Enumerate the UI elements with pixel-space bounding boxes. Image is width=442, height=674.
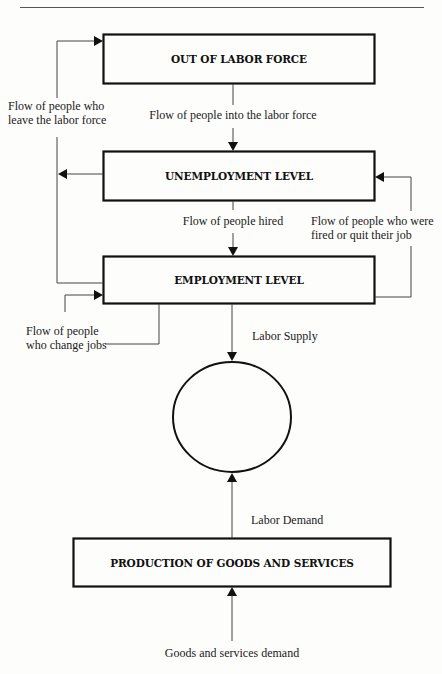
label-labor-demand: Labor Demand [251, 513, 323, 527]
flow-into-labor-force: Flow of people into the labor force [149, 84, 316, 151]
flow-labor-supply: Labor Supply [227, 304, 318, 361]
box-out-of-labor-force-title: OUT OF LABOR FORCE [171, 53, 307, 65]
arrow-up-icon [227, 473, 237, 482]
label-fired-2: fired or quit their job [311, 228, 412, 242]
label-goods-demand: Goods and services demand [165, 646, 299, 660]
labor-flow-diagram: OUT OF LABOR FORCE UNEMPLOYMENT LEVEL EM… [0, 0, 442, 674]
arrow-down-icon [228, 247, 238, 256]
arrow-left-icon [375, 172, 384, 182]
flow-goods-demand: Goods and services demand [165, 587, 299, 660]
arrow-left-icon [58, 169, 67, 179]
label-fired-1: Flow of people who were [311, 214, 434, 228]
box-unemployment-level-title: UNEMPLOYMENT LEVEL [165, 170, 314, 182]
box-out-of-labor-force: OUT OF LABOR FORCE [104, 35, 375, 84]
box-production-title: PRODUCTION OF GOODS AND SERVICES [110, 557, 354, 569]
box-employment-level: EMPLOYMENT LEVEL [104, 257, 375, 304]
arrow-down-icon [227, 352, 237, 361]
labor-market-circle [173, 362, 291, 472]
label-into-labor-force: Flow of people into the labor force [149, 108, 316, 122]
label-leave-labor-force-1: Flow of people who [8, 99, 104, 113]
arrow-up-icon [227, 587, 237, 596]
label-hired: Flow of people hired [183, 214, 283, 228]
arrow-down-icon [228, 142, 238, 151]
label-change-jobs-1: Flow of people [26, 324, 99, 338]
flow-leave-labor-force: Flow of people who leave the labor force [8, 36, 106, 283]
label-leave-labor-force-2: leave the labor force [8, 113, 106, 127]
arrow-right-icon [94, 36, 103, 46]
box-unemployment-level: UNEMPLOYMENT LEVEL [104, 152, 375, 201]
label-change-jobs-2: who change jobs [26, 338, 107, 352]
flow-hired: Flow of people hired [183, 201, 283, 256]
label-labor-supply: Labor Supply [252, 329, 318, 343]
box-production: PRODUCTION OF GOODS AND SERVICES [74, 539, 391, 587]
flow-fired-or-quit: Flow of people who were fired or quit th… [311, 172, 434, 297]
box-employment-level-title: EMPLOYMENT LEVEL [174, 274, 304, 286]
arrow-right-icon [94, 290, 103, 300]
flow-labor-demand: Labor Demand [227, 473, 323, 538]
flow-change-jobs: Flow of people who change jobs [26, 290, 159, 352]
